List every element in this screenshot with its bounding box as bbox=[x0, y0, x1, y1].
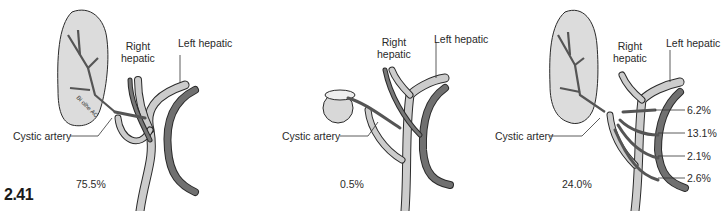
right-hepatic-label: Right hepatic bbox=[377, 36, 411, 60]
right-hepatic-label-line2: hepatic bbox=[613, 52, 647, 64]
cystic-artery-label: Cystic artery bbox=[13, 130, 71, 142]
gallbladder-shape bbox=[58, 10, 108, 126]
right-hepatic-label-line2: hepatic bbox=[121, 52, 155, 64]
right-hepatic-label: Right hepatic bbox=[121, 40, 155, 64]
gallbladder-shape bbox=[550, 10, 598, 123]
left-hepatic-label: Left hepatic bbox=[666, 37, 720, 49]
variant-percentage-2: 13.1% bbox=[687, 127, 717, 139]
left-hepatic-label: Left hepatic bbox=[178, 37, 232, 49]
panel-a-illustration: Bi olhe AC bbox=[0, 0, 240, 211]
right-hepatic-label-line1: Right bbox=[613, 40, 647, 52]
panel-variant-origins: Right hepatic Left hepatic Cystic artery… bbox=[480, 0, 722, 211]
panel-typical-origin: Bi olhe AC Right hepatic Left hepatic Cy… bbox=[0, 0, 240, 211]
right-hepatic-label-line1: Right bbox=[121, 40, 155, 52]
right-hepatic-label: Right hepatic bbox=[613, 40, 647, 64]
cystic-artery-label: Cystic artery bbox=[495, 130, 553, 142]
right-hepatic-label-line2: hepatic bbox=[377, 48, 411, 60]
variant-percentage-1: 6.2% bbox=[687, 104, 711, 116]
percentage-label: 0.5% bbox=[340, 178, 364, 190]
panel-rare-origin: Right hepatic Left hepatic Cystic artery… bbox=[240, 0, 480, 211]
percentage-label: 24.0% bbox=[562, 178, 592, 190]
variant-percentage-3: 2.1% bbox=[687, 150, 711, 162]
percentage-label: 75.5% bbox=[76, 178, 106, 190]
variant-percentage-4: 2.6% bbox=[687, 172, 711, 184]
cystic-artery-label: Cystic artery bbox=[282, 130, 340, 142]
panel-c-illustration bbox=[480, 0, 722, 211]
right-hepatic-label-line1: Right bbox=[377, 36, 411, 48]
